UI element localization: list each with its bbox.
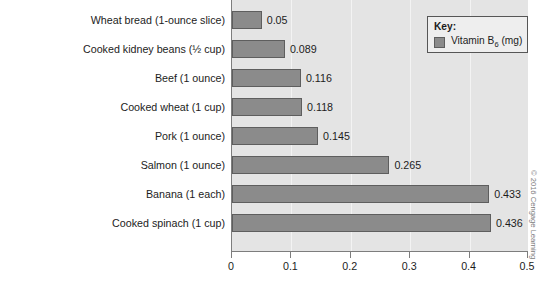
category-label-pork: Pork (1 ounce) [0, 127, 225, 145]
x-axis: 0 0.1 0.2 0.3 0.4 0.5 [231, 252, 528, 284]
bar-value-banana: 0.433 [494, 185, 521, 203]
x-tick-0.2 [350, 252, 351, 258]
legend-entry-label: Vitamin B6 (mg) [451, 35, 522, 49]
copyright-notice: © 2016 Cengage Learning [529, 170, 538, 259]
category-label-wheat-bread: Wheat bread (1-ounce slice) [0, 11, 225, 29]
category-label-cooked-spinach: Cooked spinach (1 cup) [0, 214, 225, 232]
category-label-kidney-beans: Cooked kidney beans (½ cup) [0, 40, 225, 58]
x-tick-0.3 [409, 252, 410, 258]
bar-value-salmon: 0.265 [394, 156, 421, 174]
legend-title: Key: [434, 20, 527, 33]
x-tick-label-0.3: 0.3 [402, 260, 417, 272]
bar-value-beef: 0.116 [306, 69, 332, 87]
x-tick-label-0.4: 0.4 [461, 260, 476, 272]
x-tick-0.1 [290, 252, 291, 258]
category-label-salmon: Salmon (1 ounce) [0, 156, 225, 174]
bar-value-cooked-wheat: 0.118 [307, 98, 333, 116]
vitamin-b6-bar-chart-figure: od B6. Wheat bread (1-ounce slice) Cooke… [0, 0, 558, 284]
bar-value-cooked-spinach: 0.436 [496, 214, 523, 232]
bar-beef [232, 69, 301, 87]
x-tick-label-0.2: 0.2 [342, 260, 357, 272]
bar-value-pork: 0.145 [323, 127, 350, 145]
x-tick-label-0.1: 0.1 [283, 260, 298, 272]
category-label-beef: Beef (1 ounce) [0, 69, 225, 87]
x-tick-label-0: 0 [228, 260, 234, 272]
category-label-cooked-wheat: Cooked wheat (1 cup) [0, 98, 225, 116]
x-tick-0.5 [527, 252, 528, 258]
bar-cooked-wheat [232, 98, 302, 116]
category-axis-labels: Wheat bread (1-ounce slice) Cooked kidne… [0, 0, 225, 252]
legend-entry-suffix: (mg) [499, 35, 523, 46]
legend-swatch-icon [434, 37, 445, 48]
bar-cooked-spinach [232, 214, 491, 232]
bar-pork [232, 127, 318, 145]
bar-banana [232, 185, 489, 203]
bar-value-wheat-bread: 0.05 [267, 11, 288, 29]
x-tick-label-0.5: 0.5 [520, 260, 535, 272]
bar-value-kidney-beans: 0.089 [290, 40, 317, 58]
bar-wheat-bread [232, 11, 262, 29]
bar-kidney-beans [232, 40, 285, 58]
bar-salmon [232, 156, 389, 174]
legend-entry-vitamin-b6: Vitamin B6 (mg) [434, 35, 527, 49]
x-tick-0 [231, 252, 232, 258]
legend-entry-prefix: Vitamin B [451, 35, 494, 46]
legend-box: Key: Vitamin B6 (mg) [427, 16, 528, 53]
x-tick-0.4 [469, 252, 470, 258]
category-label-banana: Banana (1 each) [0, 185, 225, 203]
